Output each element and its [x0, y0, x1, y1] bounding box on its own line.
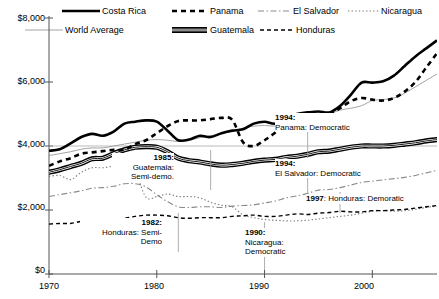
- legend-label-el-salvador: El Salvador: [293, 6, 339, 16]
- annotation-honduras-1982: 1982: Honduras: Semi- Demo: [80, 218, 162, 247]
- annotation-guatemala-1985-body-2: Semi-demo.: [131, 172, 174, 181]
- y-axis-label-0: $0: [0, 265, 45, 275]
- x-axis-label-1980: 1980: [136, 281, 172, 291]
- annotation-nicaragua-1990-year: 1990:: [245, 228, 265, 237]
- annotation-guatemala-1985: 1985: Guatemala: Semi-demo.: [112, 153, 174, 182]
- annotation-guatemala-1985-year: 1985:: [154, 153, 174, 162]
- annotation-elsalvador-1994-year: 1994:: [275, 159, 295, 168]
- annotation-nicaragua-1990-body-1: Nicaragua:: [245, 238, 284, 247]
- annotation-panama-1994-year: 1994:: [275, 113, 295, 122]
- x-axis-label-1990: 1990: [241, 281, 277, 291]
- x-axis-label-2000: 2000: [346, 281, 382, 291]
- annotation-panama-1994: 1994: Panama: Democratic: [275, 113, 350, 132]
- annotation-honduras-1982-body-1: Honduras: Semi-: [102, 228, 162, 237]
- annotation-honduras-1982-body-2: Demo: [141, 237, 162, 246]
- legend-label-world-average: World Average: [65, 25, 124, 35]
- legend-label-panama: Panama: [210, 6, 244, 16]
- annotation-nicaragua-1990: 1990: Nicaragua: Democratic: [245, 228, 285, 257]
- annotation-honduras-1997: 1997: Honduras: Demoratic: [306, 194, 404, 204]
- annotation-panama-1994-body: Panama: Democratic: [275, 123, 350, 132]
- chart-canvas: [0, 0, 439, 299]
- annotation-guatemala-1985-body-1: Guatemala:: [133, 163, 174, 172]
- chart-figure: $8,000 $6,000 $4,000 $2,000 $0 1970 1980…: [0, 0, 439, 299]
- annotation-honduras-1997-year: 1997: [306, 194, 324, 203]
- x-axis-label-1970: 1970: [31, 281, 67, 291]
- annotation-honduras-1997-body: : Honduras: Demoratic: [324, 194, 404, 203]
- legend-label-honduras: Honduras: [296, 25, 335, 35]
- legend-label-costa-rica: Costa Rica: [102, 6, 146, 16]
- y-axis-label-6000: $6,000: [0, 76, 45, 86]
- y-axis-label-8000: $8,000: [0, 13, 45, 23]
- y-axis-label-2000: $2,000: [0, 202, 45, 212]
- y-axis-label-4000: $4,000: [0, 139, 45, 149]
- annotation-elsalvador-1994-body: El Salvador: Democratic: [275, 169, 361, 178]
- annotation-honduras-1982-year: 1982:: [142, 218, 162, 227]
- annotation-elsalvador-1994: 1994: El Salvador: Democratic: [275, 159, 361, 178]
- legend-label-nicaragua: Nicaragua: [381, 6, 422, 16]
- annotation-nicaragua-1990-body-2: Democratic: [245, 247, 285, 256]
- legend-label-guatemala: Guatemala: [210, 25, 254, 35]
